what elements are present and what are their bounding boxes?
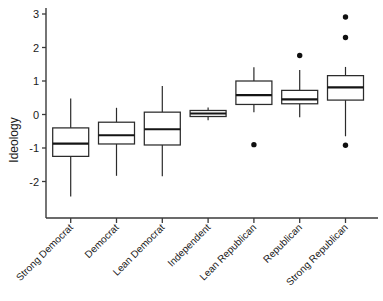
y-axis-title: Ideology [7, 117, 21, 162]
y-tick-label: 2 [33, 42, 39, 54]
boxplot-0 [53, 98, 89, 196]
outlier-point-0 [343, 14, 348, 19]
boxplot-4 [236, 67, 272, 147]
x-axis-category-labels: Strong DemocratDemocratLean DemocratInde… [14, 221, 350, 287]
boxplot-figure: Ideology 3210-1-2 Strong DemocratDemocra… [0, 0, 383, 301]
boxplot-5 [282, 53, 318, 117]
x-category-label-0: Strong Democrat [14, 221, 75, 282]
boxplot-3 [190, 107, 226, 120]
outlier-point-2 [343, 143, 348, 148]
boxplot-6 [328, 14, 364, 148]
x-category-label-5: Republican [261, 222, 304, 265]
box-iqr [99, 122, 135, 144]
box-iqr [53, 128, 89, 156]
box-iqr [282, 90, 318, 103]
outlier-point-0 [251, 142, 256, 147]
x-category-label-3: Independent [165, 221, 212, 268]
y-tick-label: -2 [29, 176, 39, 188]
box-group [53, 14, 364, 196]
boxplot-1 [99, 108, 135, 176]
boxplot-2 [144, 86, 180, 176]
y-axis-ticks: 3210-1-2 [29, 8, 46, 188]
y-tick-label: 1 [33, 75, 39, 87]
boxplot-svg: Ideology 3210-1-2 Strong DemocratDemocra… [0, 0, 383, 301]
box-iqr [236, 81, 272, 104]
y-axis-title-group: Ideology [7, 117, 21, 162]
outlier-point-0 [297, 53, 302, 58]
x-category-label-1: Democrat [82, 221, 121, 260]
y-tick-label: 0 [33, 109, 39, 121]
outlier-point-1 [343, 35, 348, 40]
y-tick-label: -1 [29, 142, 39, 154]
y-tick-label: 3 [33, 8, 39, 20]
